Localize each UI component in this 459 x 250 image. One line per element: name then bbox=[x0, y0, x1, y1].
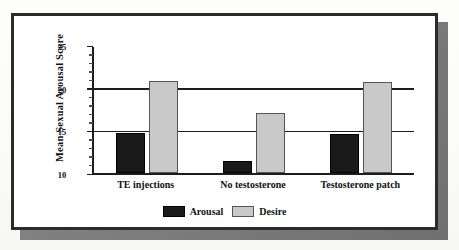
y-tick-label: 10 bbox=[58, 170, 67, 180]
x-axis-line bbox=[92, 173, 414, 175]
chart-plot-wrapper: Mean Sexual Arousal Score 10152025 TE in… bbox=[14, 16, 435, 227]
chart-frame: Mean Sexual Arousal Score 10152025 TE in… bbox=[11, 13, 438, 230]
bar-group bbox=[201, 47, 308, 173]
bar-desire[interactable] bbox=[149, 81, 178, 173]
y-tick-minor bbox=[89, 122, 93, 124]
legend-item[interactable]: Desire bbox=[232, 206, 286, 217]
x-axis-label: Testosterone patch bbox=[307, 179, 414, 190]
page: Mean Sexual Arousal Score 10152025 TE in… bbox=[0, 0, 459, 250]
y-tick-minor bbox=[89, 105, 93, 107]
y-tick-major bbox=[87, 46, 93, 48]
x-axis-labels: TE injectionsNo testosteroneTestosterone… bbox=[92, 179, 414, 190]
y-tick-minor bbox=[89, 54, 93, 56]
axis-area: 10152025 bbox=[92, 47, 414, 175]
bar-arousal[interactable] bbox=[330, 134, 359, 173]
dark-swatch-icon bbox=[163, 206, 185, 217]
bar-groups bbox=[94, 47, 414, 173]
legend-label: Desire bbox=[259, 206, 286, 217]
bar-arousal[interactable] bbox=[223, 161, 252, 173]
x-axis-label: No testosterone bbox=[199, 179, 306, 190]
y-tick-label: 15 bbox=[58, 127, 67, 137]
y-tick-minor bbox=[89, 165, 93, 167]
y-axis-title: Mean Sexual Arousal Score bbox=[52, 34, 68, 162]
y-tick-minor bbox=[89, 97, 93, 99]
light-swatch-icon bbox=[232, 206, 254, 217]
y-tick-minor bbox=[89, 80, 93, 82]
y-tick-minor bbox=[89, 139, 93, 141]
y-tick-major bbox=[87, 174, 93, 176]
y-tick-minor bbox=[89, 71, 93, 73]
bar-group bbox=[307, 47, 414, 173]
x-axis-label: TE injections bbox=[92, 179, 199, 190]
bar-arousal[interactable] bbox=[116, 133, 145, 173]
y-tick-label: 20 bbox=[58, 85, 67, 95]
bar-group bbox=[94, 47, 201, 173]
y-tick-minor bbox=[89, 114, 93, 116]
y-tick-minor bbox=[89, 156, 93, 158]
bar-desire[interactable] bbox=[256, 113, 285, 173]
legend-item[interactable]: Arousal bbox=[163, 206, 224, 217]
y-tick-minor bbox=[89, 63, 93, 65]
legend-label: Arousal bbox=[190, 206, 224, 217]
y-tick-label: 25 bbox=[58, 42, 67, 52]
bar-desire[interactable] bbox=[363, 82, 392, 173]
y-tick-minor bbox=[89, 148, 93, 150]
chart-legend: ArousalDesire bbox=[14, 206, 435, 217]
